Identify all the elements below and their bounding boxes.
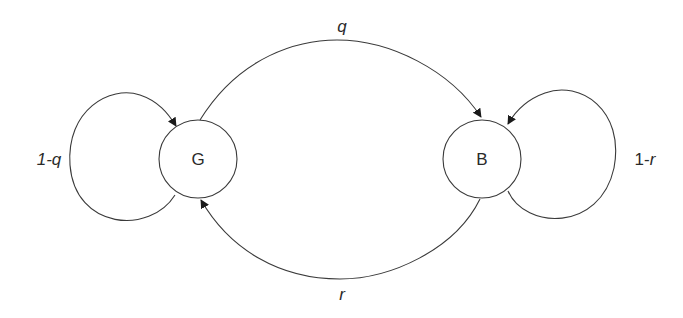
edge-g-to-g-label: 1-q (37, 150, 62, 169)
edge-g-to-b (200, 40, 481, 120)
edge-b-to-b-label: 1-r (635, 150, 657, 169)
edge-b-to-g-label: r (339, 285, 346, 304)
node-b-label: B (476, 150, 487, 169)
node-g-label: G (191, 150, 204, 169)
node-b: B (443, 120, 521, 198)
edge-b-to-g (201, 199, 480, 279)
edge-g-to-b-label: q (337, 17, 347, 36)
markov-diagram: G B 1-q q r 1-r (0, 0, 683, 318)
edge-b-to-b (508, 90, 616, 219)
node-g: G (159, 120, 237, 198)
